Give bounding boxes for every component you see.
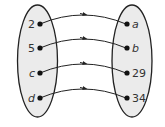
- range-label: 29: [132, 67, 146, 80]
- domain-oval: [18, 5, 58, 117]
- mapping-diagram: 2 5 c d a b 29 34: [0, 0, 165, 127]
- range-label: b: [132, 42, 139, 55]
- domain-label: c: [29, 67, 35, 80]
- range-label: a: [132, 18, 139, 31]
- domain-label: d: [28, 92, 36, 105]
- domain-label: 5: [28, 42, 35, 55]
- range-label: 34: [132, 92, 146, 105]
- domain-label: 2: [28, 18, 35, 31]
